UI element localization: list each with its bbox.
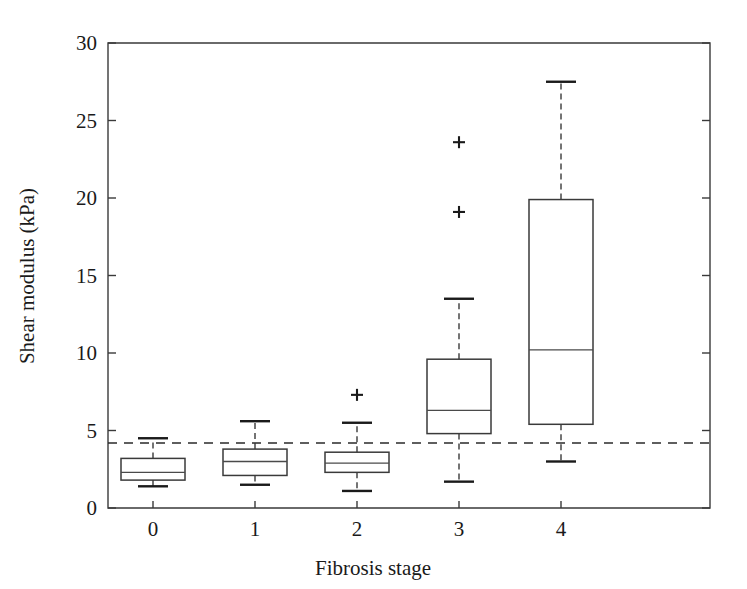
box-group-stage-3 [427,136,491,481]
y-axis-title: Shear modulus (kPa) [15,188,39,364]
box-group-stage-4 [529,82,593,462]
y-tick-label: 5 [87,419,98,443]
axes-border [108,43,710,508]
box-group-stage-1 [223,421,287,485]
box-group-stage-0 [121,438,185,486]
box-group-stage-2 [325,389,389,491]
y-tick-label: 15 [76,264,97,288]
box-series [121,82,593,491]
y-tick-label: 20 [76,186,97,210]
y-tick-label: 10 [76,341,97,365]
box-iqr [223,449,287,475]
axes-frame [108,43,710,508]
boxplot-chart: 051015202530 01234 Fibrosis stage Shear … [0,0,747,589]
x-tick-label: 0 [148,517,159,541]
box-iqr [529,200,593,425]
outlier-marker [351,389,363,401]
y-tick-label: 0 [87,496,98,520]
outlier-marker [453,206,465,218]
box-iqr [121,458,185,480]
y-axis-ticks: 051015202530 [76,31,710,520]
outlier-marker [453,136,465,148]
y-tick-label: 25 [76,109,97,133]
y-tick-label: 30 [76,31,97,55]
figure-container: 051015202530 01234 Fibrosis stage Shear … [0,0,747,589]
x-tick-label: 3 [454,517,465,541]
x-axis-title: Fibrosis stage [315,556,431,580]
x-tick-label: 4 [556,517,567,541]
box-iqr [427,359,491,433]
x-axis-ticks: 01234 [148,501,567,541]
x-tick-label: 1 [250,517,261,541]
box-iqr [325,452,389,472]
x-tick-label: 2 [352,517,363,541]
